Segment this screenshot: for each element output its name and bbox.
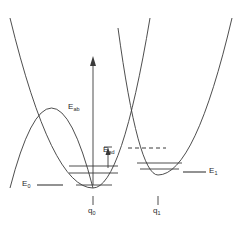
ground-state-energy-label: E0 <box>22 180 31 188</box>
excited-coordinate-label: q1 <box>153 207 161 215</box>
ground-state-parabola <box>10 108 93 188</box>
activation-energy-label: Ead <box>103 146 115 154</box>
absorption-arrow-head <box>90 56 96 66</box>
configuration-coordinate-figure: Eab Ead E0 E1 q0 q1 <box>0 0 239 227</box>
excited-state-parabola-right-arm <box>158 18 232 175</box>
diagram-canvas <box>0 0 239 227</box>
absorption-energy-label: Eab <box>68 103 80 111</box>
excited-state-energy-label: E1 <box>209 167 218 175</box>
ground-state-parabola-right-arm <box>93 18 150 188</box>
excited-state-parabola-left-arm <box>118 28 158 175</box>
ground-state-parabola-left-arm <box>10 18 93 188</box>
ground-coordinate-label: q0 <box>88 207 96 215</box>
